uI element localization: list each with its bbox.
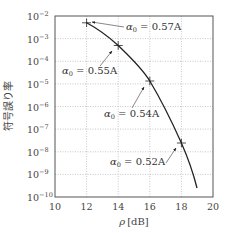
- svg-text:10−4: 10−4: [27, 55, 49, 67]
- svg-text:14: 14: [112, 201, 124, 212]
- svg-text:12: 12: [81, 201, 93, 212]
- y-axis-label: 符号誤り率: [2, 81, 14, 131]
- x-tick-labels: 10 12 14 16 18 20: [49, 201, 219, 212]
- svg-text:18: 18: [175, 201, 187, 212]
- svg-text:10−5: 10−5: [27, 78, 49, 90]
- data-markers: [82, 19, 186, 148]
- grid: [55, 16, 213, 197]
- x-axis-label: ρ[dB]: [118, 216, 149, 227]
- plot-frame: [55, 16, 213, 197]
- svg-text:16: 16: [144, 201, 156, 212]
- svg-text:10−9: 10−9: [27, 168, 49, 180]
- annotation-055: α0 = 0.55A: [62, 65, 118, 78]
- svg-text:10−7: 10−7: [27, 123, 49, 135]
- y-tick-labels: 10−2 10−3 10−4 10−5 10−6 10−7 10−8 10−9 …: [27, 10, 53, 203]
- annotation-052: α0 = 0.52A: [110, 156, 166, 169]
- chart: α0 = 0.57A α0 = 0.55A α0 = 0.54A α0 = 0.…: [0, 0, 225, 233]
- svg-text:10−3: 10−3: [27, 33, 49, 45]
- annotation-057: α0 = 0.57A: [126, 21, 182, 34]
- svg-text:10−2: 10−2: [27, 10, 49, 22]
- annotation-054: α0 = 0.54A: [104, 108, 160, 121]
- annotation-arrows: [92, 22, 176, 163]
- svg-text:10: 10: [49, 201, 61, 212]
- svg-text:10−6: 10−6: [27, 101, 49, 113]
- svg-text:10−8: 10−8: [27, 146, 49, 158]
- svg-text:20: 20: [207, 201, 219, 212]
